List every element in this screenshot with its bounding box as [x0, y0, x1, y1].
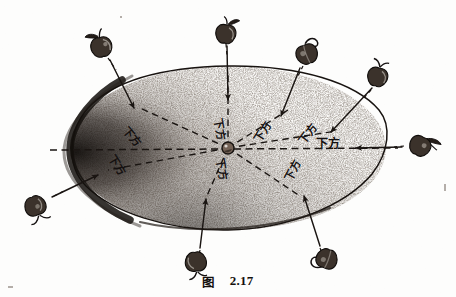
figure-caption: 图 2.17: [0, 268, 456, 294]
figure-container: 下方 下方 下方 下方 下方 下方 下方 下方: [0, 0, 456, 297]
caption-number: 2.17: [230, 273, 254, 289]
label-down-east: 下方: [316, 136, 340, 151]
earth-center-dot: [222, 142, 234, 154]
figure-illustration: 下方 下方 下方 下方 下方 下方 下方 下方: [0, 0, 456, 297]
caption-label: 图: [202, 272, 215, 291]
